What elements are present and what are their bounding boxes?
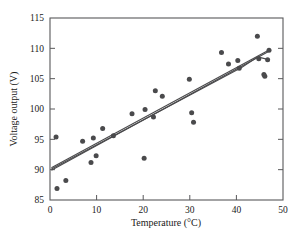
y-tick-label: 85 — [35, 195, 45, 205]
data-point — [189, 110, 194, 115]
x-tick-label: 10 — [92, 205, 102, 215]
x-tick-label: 20 — [138, 205, 148, 215]
data-point — [89, 160, 94, 165]
data-point — [143, 107, 148, 112]
data-point — [226, 62, 231, 67]
data-point — [187, 77, 192, 82]
data-point — [153, 88, 158, 93]
data-point — [160, 94, 165, 99]
data-point — [267, 48, 272, 53]
x-tick-label: 0 — [48, 205, 53, 215]
y-tick-label: 115 — [30, 13, 44, 23]
y-axis-tick-labels: 859095100105110115 — [30, 13, 45, 205]
y-tick-label: 95 — [35, 135, 45, 145]
data-point — [237, 66, 242, 71]
data-point — [142, 156, 147, 161]
data-point — [151, 114, 156, 119]
y-tick-label: 100 — [30, 104, 45, 114]
data-point — [54, 134, 59, 139]
y-tick-label: 90 — [35, 165, 45, 175]
data-point — [94, 153, 99, 158]
data-point — [219, 50, 224, 55]
data-point — [191, 120, 196, 125]
data-point — [91, 136, 96, 141]
data-point — [111, 133, 116, 138]
data-point-series — [54, 34, 272, 191]
x-tick-label: 30 — [185, 205, 195, 215]
data-point — [265, 57, 270, 62]
data-point — [63, 178, 68, 183]
y-axis-title: Voltage output (V) — [8, 72, 20, 147]
x-tick-label: 50 — [278, 205, 288, 215]
x-axis-title: Temperature (°C) — [131, 217, 201, 229]
x-tick-label: 40 — [232, 205, 242, 215]
y-tick-label: 110 — [30, 44, 44, 54]
data-point — [130, 111, 135, 116]
chart-canvas: 01020304050 859095100105110115 Temperatu… — [0, 0, 304, 243]
data-point — [256, 56, 261, 61]
x-axis-tick-labels: 01020304050 — [48, 205, 288, 215]
plot-frame — [50, 18, 283, 200]
data-point — [262, 74, 267, 79]
x-axis-ticks — [97, 195, 237, 200]
data-point — [80, 139, 85, 144]
data-point — [54, 186, 59, 191]
data-point — [100, 126, 105, 131]
data-point — [235, 58, 240, 63]
y-tick-label: 105 — [30, 74, 45, 84]
scatter-plot-figure: 01020304050 859095100105110115 Temperatu… — [0, 0, 304, 243]
data-point — [255, 34, 260, 39]
